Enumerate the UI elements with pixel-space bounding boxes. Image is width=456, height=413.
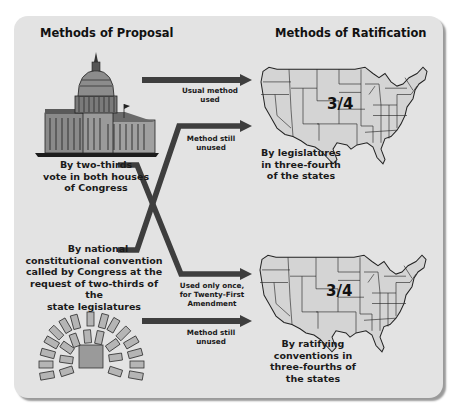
label-line: unused: [175, 143, 247, 152]
label-line: for Twenty-First: [172, 290, 252, 299]
label-line: the states: [268, 373, 358, 385]
label-line: three-fourths of: [268, 361, 358, 373]
diagram-graphics: [0, 0, 456, 413]
path-label-unused-1: Method still unused: [175, 134, 247, 152]
label-line: Used only once,: [172, 281, 252, 290]
label-line: in three-fourth: [256, 159, 346, 171]
capitol-building-icon: [35, 52, 159, 157]
label-congress: By two-thirds vote in both houses of Con…: [36, 159, 156, 194]
label-line: used: [170, 95, 250, 104]
convention-seating-icon: [39, 312, 144, 380]
label-line: unused: [175, 337, 247, 346]
fraction-conventions: 3/4: [326, 282, 352, 300]
path-label-usual: Usual method used: [170, 86, 250, 104]
label-line: Usual method: [170, 86, 250, 95]
label-line: By national: [24, 243, 164, 255]
path-label-once: Used only once, for Twenty-First Amendme…: [172, 281, 252, 308]
label-line: Method still: [175, 328, 247, 337]
label-line: By ratifying: [268, 338, 358, 350]
label-line: request of two-thirds of the: [24, 278, 164, 301]
path-label-unused-2: Method still unused: [175, 328, 247, 346]
label-line: of Congress: [36, 182, 156, 194]
label-line: Method still: [175, 134, 247, 143]
label-line: state legislatures: [24, 301, 164, 313]
label-line: of the states: [256, 170, 346, 182]
label-conventions: By ratifying conventions in three-fourth…: [268, 338, 358, 384]
label-line: By two-thirds: [36, 159, 156, 171]
label-line: conventions in: [268, 350, 358, 362]
label-line: constitutional convention: [24, 255, 164, 267]
label-convention: By national constitutional convention ca…: [24, 243, 164, 312]
label-line: Amendment: [172, 299, 252, 308]
label-line: called by Congress at the: [24, 266, 164, 278]
label-line: vote in both houses: [36, 171, 156, 183]
label-line: By legislatures: [256, 147, 346, 159]
fraction-legislatures: 3/4: [327, 95, 353, 113]
label-legislatures: By legislatures in three-fourth of the s…: [256, 147, 346, 182]
